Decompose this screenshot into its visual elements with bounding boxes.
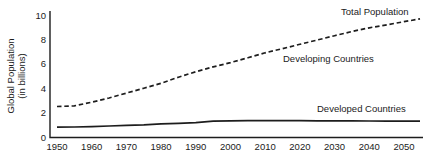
x-tick-label: 2050 <box>389 141 419 152</box>
y-tick-label: 4 <box>26 83 46 94</box>
y-axis-title-line1: Global Population <box>6 21 17 131</box>
chart-canvas <box>0 0 433 158</box>
y-tick-label: 10 <box>26 10 46 21</box>
series-line-developed-countries <box>57 121 420 128</box>
x-tick-label: 2020 <box>285 141 315 152</box>
x-tick-label: 1960 <box>77 141 107 152</box>
y-tick-label: 8 <box>26 34 46 45</box>
series-label-total-population: Total Population <box>341 6 409 17</box>
population-growth-chart: Global Population (in billions) Total Po… <box>0 0 433 158</box>
x-tick-label: 1950 <box>42 141 72 152</box>
axis-lines <box>50 11 423 138</box>
x-tick-label: 1990 <box>181 141 211 152</box>
series-label-developed-countries: Developed Countries <box>317 103 406 114</box>
y-tick-label: 6 <box>26 58 46 69</box>
series-label-developing-countries: Developing Countries <box>283 53 374 64</box>
y-axis-title: Global Population (in billions) <box>6 21 28 131</box>
x-tick-label: 2000 <box>216 141 246 152</box>
x-tick-label: 1970 <box>111 141 141 152</box>
x-tick-label: 2030 <box>320 141 350 152</box>
x-tick-label: 1980 <box>146 141 176 152</box>
x-tick-label: 2010 <box>250 141 280 152</box>
x-tick-label: 2040 <box>354 141 384 152</box>
y-tick-label: 2 <box>26 107 46 118</box>
